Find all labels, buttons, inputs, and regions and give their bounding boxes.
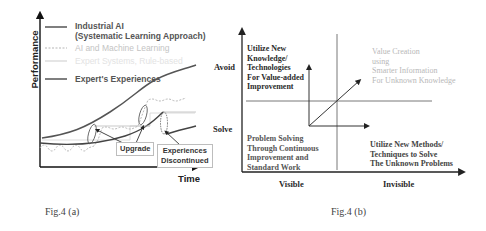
quadrant-top-right: Value Creation using Smarter Information…	[372, 47, 456, 85]
q-tl-line: Knowledge/	[247, 54, 304, 64]
q-tr-line: For Unknown Knowledge	[372, 76, 456, 86]
inner-diagonal-arrow	[309, 81, 359, 126]
figure-4b-graphics	[0, 0, 486, 231]
quadrant-top-left: Utilize New Knowledge/ Technologies For …	[247, 44, 304, 92]
label-avoid: Avoid	[214, 63, 235, 73]
q-tr-line: Smarter Information	[372, 66, 456, 76]
q-bl-line: Improvement and	[247, 153, 319, 163]
q-bl-line: Problem Solving	[247, 134, 319, 144]
q-bl-line: Through Continuous	[247, 144, 319, 154]
q-tl-line: Utilize New	[247, 44, 304, 54]
q-tl-line: Improvement	[247, 82, 304, 92]
q-br-line: Techniques to Solve	[370, 150, 453, 160]
q-bl-line: Standard Work	[247, 163, 319, 173]
q-br-line: Utilize New Methods/	[370, 140, 453, 150]
label-visible: Visible	[279, 180, 304, 190]
caption-fig-4b: Fig.4 (b)	[331, 206, 366, 217]
q-br-line: The Unknown Problems	[370, 159, 453, 169]
label-solve: Solve	[213, 125, 232, 135]
q-tr-line: using	[372, 57, 456, 67]
q-tl-line: For Value-added	[247, 73, 304, 83]
q-tl-line: Technologies	[247, 63, 304, 73]
quadrant-bottom-left: Problem Solving Through Continuous Impro…	[247, 134, 319, 172]
quadrant-bottom-right: Utilize New Methods/ Techniques to Solve…	[370, 140, 453, 169]
q-tr-line: Value Creation	[372, 47, 456, 57]
label-invisible: Invisible	[383, 180, 414, 190]
